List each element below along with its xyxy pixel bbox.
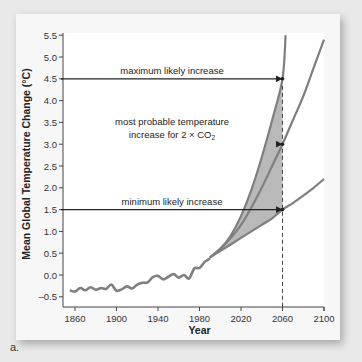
y-tick-label: –0.5 (39, 291, 58, 302)
x-axis-label: Year (188, 324, 210, 336)
y-tick-label: 2.0 (44, 182, 57, 193)
y-tick-label: 5.5 (44, 30, 57, 41)
reference-point (281, 208, 285, 212)
x-tick-label: 1980 (189, 313, 210, 324)
y-tick-label: 1.5 (44, 204, 57, 215)
figure-caption: a. (10, 341, 19, 353)
reference-label: maximum likely increase (120, 65, 223, 76)
y-tick-label: 1.0 (44, 226, 57, 237)
x-tick-label: 2020 (230, 313, 251, 324)
x-tick-label: 2100 (313, 313, 334, 324)
y-tick-label: 5.0 (44, 52, 57, 63)
y-tick-label: 3.5 (44, 117, 57, 128)
y-tick-label: 0.5 (44, 248, 57, 259)
y-tick-label: 2.5 (44, 161, 57, 172)
reference-label-line2: increase for 2 × CO2 (129, 129, 216, 141)
y-tick-label: 3.0 (44, 139, 57, 150)
x-tick-label: 2060 (272, 313, 293, 324)
y-tick-label: 4.0 (44, 95, 57, 106)
reference-label: minimum likely increase (122, 196, 223, 207)
x-tick-label: 1860 (64, 313, 85, 324)
temperature-chart: 5.55.04.54.03.53.02.52.01.51.00.50.0–0.5… (0, 0, 362, 362)
reference-point (281, 77, 285, 81)
reference-label-line1: most probable temperature (115, 116, 229, 127)
y-axis-label: Mean Global Temperature Change (°C) (20, 68, 32, 259)
x-tick-label: 1940 (147, 313, 168, 324)
y-tick-label: 0.0 (44, 270, 57, 281)
y-tick-label: 4.5 (44, 73, 57, 84)
x-tick-label: 1900 (106, 313, 127, 324)
reference-point (281, 142, 285, 146)
